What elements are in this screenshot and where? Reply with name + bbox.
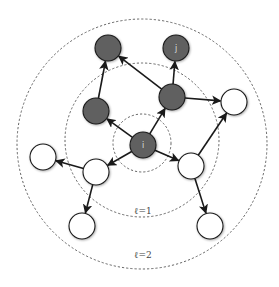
edge-i-f bbox=[155, 150, 179, 160]
node-a bbox=[83, 98, 109, 124]
node-b bbox=[159, 84, 185, 110]
node-k bbox=[197, 213, 223, 239]
edge-i-e bbox=[108, 151, 132, 165]
edge-e-g bbox=[56, 161, 84, 169]
node-f bbox=[178, 153, 204, 179]
node-c bbox=[95, 35, 121, 61]
ring-labels: ℓ=1ℓ=2 bbox=[134, 206, 152, 260]
node-j: j bbox=[163, 35, 189, 61]
ring-2-label: ℓ=2 bbox=[134, 250, 152, 260]
edge-e-h bbox=[85, 185, 92, 213]
edge-f-k bbox=[195, 178, 206, 213]
edge-b-j bbox=[173, 61, 175, 84]
edge-f-d bbox=[198, 113, 226, 155]
node-d bbox=[221, 89, 247, 115]
node-label-j: j bbox=[174, 44, 177, 53]
edge-i-b bbox=[150, 109, 165, 134]
node-h bbox=[69, 213, 95, 239]
edge-a-c bbox=[98, 61, 105, 98]
node-label-i: i bbox=[142, 141, 144, 150]
ring-1-label: ℓ=1 bbox=[134, 206, 152, 216]
node-e bbox=[83, 159, 109, 185]
node-i: i bbox=[130, 132, 156, 158]
node-g bbox=[30, 144, 56, 170]
edge-b-d bbox=[185, 98, 221, 101]
edge-i-a bbox=[107, 119, 133, 137]
network-diagram: ij ℓ=1ℓ=2 bbox=[0, 0, 279, 287]
edge-b-c bbox=[119, 56, 162, 89]
